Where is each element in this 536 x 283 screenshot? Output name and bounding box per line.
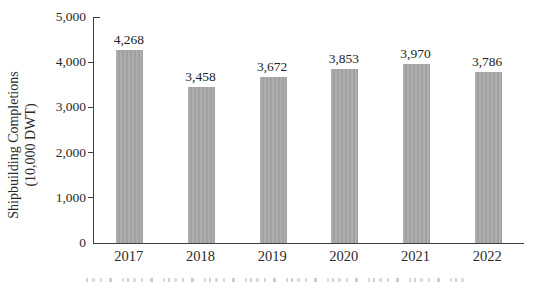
y-axis-top-tick xyxy=(94,17,100,18)
bar-2017 xyxy=(116,50,143,243)
bar-value-label: 3,672 xyxy=(257,59,287,74)
bar-chart-figure: Shipbuilding Completions (10,000 DWT) 01… xyxy=(0,0,536,283)
bar-value-label: 4,268 xyxy=(114,32,144,47)
y-tick-mark xyxy=(88,152,93,153)
x-tick-label: 2018 xyxy=(186,248,215,264)
y-tick-label: 4,000 xyxy=(0,54,86,70)
y-tick-label: 0 xyxy=(0,235,86,251)
cropped-caption-remnant xyxy=(86,278,467,282)
y-tick-mark xyxy=(88,62,93,63)
bar-value-label: 3,458 xyxy=(185,69,215,84)
y-tick-label: 1,000 xyxy=(0,190,86,206)
x-tick-label: 2022 xyxy=(473,248,502,264)
y-tick-mark xyxy=(88,197,93,198)
bar-value-label: 3,786 xyxy=(472,54,502,69)
y-tick-label: 5,000 xyxy=(0,9,86,25)
y-tick-mark xyxy=(88,107,93,108)
plot-area xyxy=(93,17,524,244)
y-tick-label: 2,000 xyxy=(0,145,86,161)
bar-value-label: 3,853 xyxy=(329,51,359,66)
y-tick-label: 3,000 xyxy=(0,99,86,115)
bar-2018 xyxy=(188,87,215,243)
bar-2019 xyxy=(260,77,287,243)
x-tick-label: 2021 xyxy=(401,248,430,264)
bar-2022 xyxy=(475,72,502,243)
x-tick-label: 2017 xyxy=(114,248,143,264)
bar-2020 xyxy=(331,69,358,243)
bar-value-label: 3,970 xyxy=(400,46,430,61)
bar-2021 xyxy=(403,64,430,243)
x-tick-label: 2020 xyxy=(329,248,358,264)
x-tick-label: 2019 xyxy=(258,248,287,264)
